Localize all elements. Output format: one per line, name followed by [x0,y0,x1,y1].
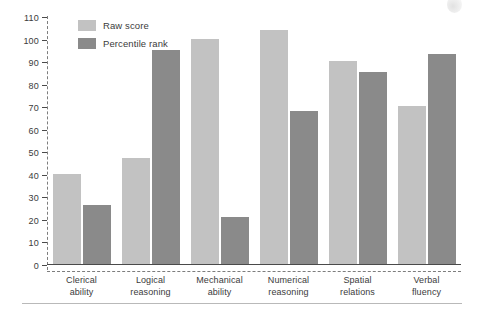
bar-percentile-rank [83,205,111,264]
x-axis-category-label-line: reasoning [254,286,323,298]
y-axis-tick: 90 [29,55,47,67]
y-axis-tick: 30 [29,190,47,202]
y-axis-tick: 0 [34,258,47,270]
bar-percentile-rank [359,72,387,264]
x-axis-category-label-line: Clerical [47,274,116,286]
bar-group [122,16,180,264]
y-axis-tick-label: 0 [34,261,39,271]
bar-group [329,16,387,264]
bar-percentile-rank [428,54,456,264]
y-axis-tick-label: 50 [29,148,39,158]
x-axis-category-label: Verbalfluency [392,274,461,298]
x-axis-category-label-line: Logical [116,274,185,286]
plot-area [47,16,467,264]
x-axis-category-label-line: ability [47,286,116,298]
x-axis-category-label: Spatialrelations [323,274,392,298]
y-axis-tick-label: 80 [29,81,39,91]
y-axis-tick: 10 [29,235,47,247]
x-axis-category-label-line: Mechanical [185,274,254,286]
x-axis-category-label-line: fluency [392,286,461,298]
y-axis-tick-label: 60 [29,126,39,136]
x-axis-category-label: Numericalreasoning [254,274,323,298]
x-axis-category-label: Clericalability [47,274,116,298]
x-axis-category-label-line: Numerical [254,274,323,286]
bar-percentile-rank [221,217,249,264]
x-axis-labels: ClericalabilityLogicalreasoningMechanica… [47,274,467,304]
bar-raw-score [398,106,426,264]
y-axis-tick-label: 40 [29,171,39,181]
bar-raw-score [53,174,81,264]
bar-raw-score [191,39,219,264]
y-axis-tick: 110 [24,10,47,22]
y-axis-tick: 100 [23,33,47,45]
bar-group [53,16,111,264]
bar-raw-score [122,158,150,264]
x-axis-category-label: Logicalreasoning [116,274,185,298]
y-axis-tick: 60 [29,123,47,135]
y-axis-tick: 40 [29,168,47,180]
y-axis-tick-label: 30 [29,193,39,203]
x-axis-baseline [47,264,461,265]
bar-percentile-rank [290,111,318,264]
x-axis-category-label-line: Spatial [323,274,392,286]
x-axis-category-label-line: relations [323,286,392,298]
bar-percentile-rank [152,50,180,264]
y-axis-tick-label: 10 [29,238,39,248]
x-axis-category-label-line: ability [185,286,254,298]
bar-chart-figure: 1101009080706050403020100 Raw scorePerce… [0,0,483,314]
y-axis: 1101009080706050403020100 [0,0,47,314]
bar-raw-score [260,30,288,264]
bar-group [398,16,456,264]
y-axis-tick-label: 90 [29,58,39,68]
x-axis-category-label-line: Verbal [392,274,461,286]
y-axis-tick: 70 [29,100,47,112]
bar-group [260,16,318,264]
bar-group [191,16,249,264]
y-axis-tick-label: 110 [24,13,39,23]
bar-raw-score [329,61,357,264]
y-axis-tick: 50 [29,145,47,157]
y-axis-tick: 80 [29,78,47,90]
category-band-divider [47,271,461,272]
y-axis-tick: 20 [29,213,47,225]
y-axis-tick-label: 20 [29,216,39,226]
y-axis-tick-label: 70 [29,103,39,113]
page-corner-smudge [447,0,462,13]
x-axis-category-label: Mechanicalability [185,274,254,298]
y-axis-tick-label: 100 [23,36,39,46]
x-axis-category-label-line: reasoning [116,286,185,298]
